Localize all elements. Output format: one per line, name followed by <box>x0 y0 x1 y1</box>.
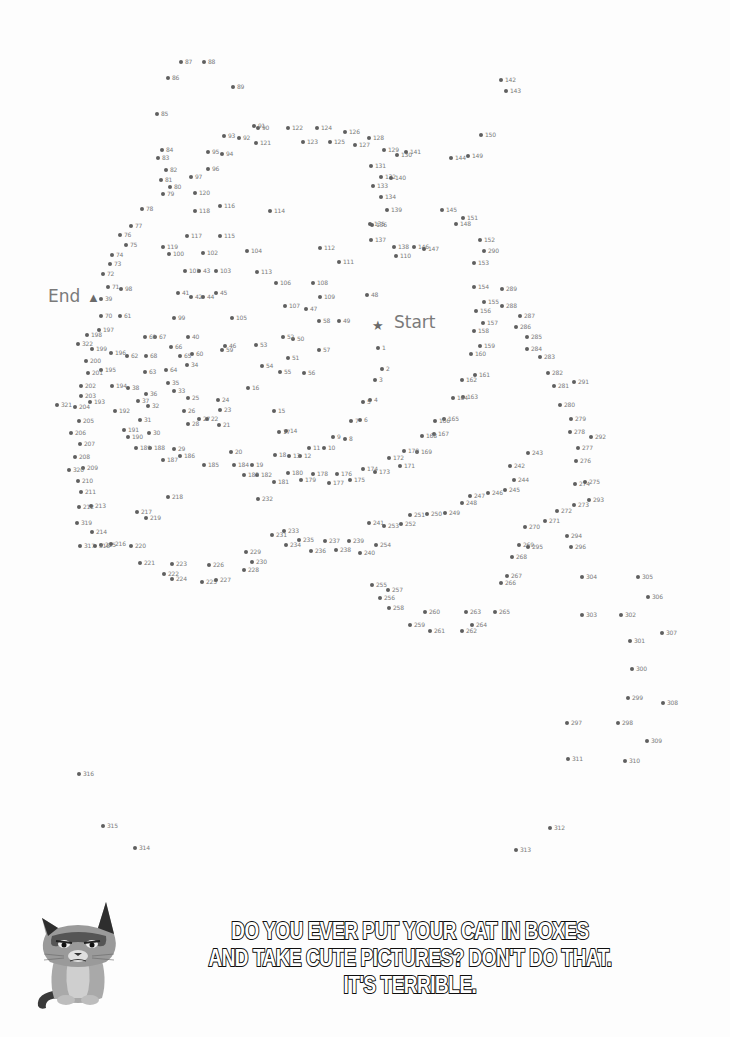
puzzle-dot <box>109 351 113 355</box>
puzzle-dot <box>574 459 578 463</box>
puzzle-dot <box>136 399 140 403</box>
dot-number-label: 160 <box>475 350 486 357</box>
dot-number-label: 66 <box>175 343 182 350</box>
puzzle-dot <box>335 472 339 476</box>
dot-number-label: 68 <box>150 352 157 359</box>
puzzle-dot <box>374 543 378 547</box>
puzzle-dot <box>237 136 241 140</box>
caption-text: DO YOU EVER PUT YOUR CAT IN BOXES AND TA… <box>130 918 690 999</box>
puzzle-dot <box>286 126 290 130</box>
puzzle-dot <box>425 512 429 516</box>
dot-number-label: 145 <box>446 206 457 213</box>
dot-number-label: 45 <box>220 289 227 296</box>
puzzle-dot <box>161 192 165 196</box>
dot-number-label: 162 <box>466 376 477 383</box>
dot-number-label: 158 <box>478 327 489 334</box>
puzzle-dot <box>460 501 464 505</box>
puzzle-dot <box>387 606 391 610</box>
dot-number-label: 192 <box>119 407 130 414</box>
dot-number-label: 6 <box>364 416 368 423</box>
dot-number-label: 216 <box>115 540 126 547</box>
puzzle-dot <box>334 548 338 552</box>
puzzle-dot <box>565 534 569 538</box>
dot-number-label: 306 <box>652 593 663 600</box>
dot-number-label: 142 <box>505 76 516 83</box>
dot-number-label: 55 <box>284 368 291 375</box>
dot-number-label: 201 <box>92 369 103 376</box>
puzzle-dot <box>315 126 319 130</box>
dot-number-label: 7 <box>355 417 359 424</box>
dot-number-label: 56 <box>308 369 315 376</box>
dot-number-label: 204 <box>79 403 90 410</box>
puzzle-dot <box>166 495 170 499</box>
puzzle-dot <box>86 371 90 375</box>
puzzle-dot <box>186 422 190 426</box>
dot-number-label: 205 <box>83 417 94 424</box>
puzzle-dot <box>207 563 211 567</box>
dot-number-label: 115 <box>224 232 235 239</box>
dot-number-label: 195 <box>105 366 116 373</box>
dot-number-label: 39 <box>105 295 112 302</box>
dot-number-label: 149 <box>472 152 483 159</box>
puzzle-dot <box>93 544 97 548</box>
puzzle-dot <box>394 254 398 258</box>
dot-number-label: 219 <box>150 514 161 521</box>
puzzle-dot <box>358 551 362 555</box>
puzzle-dot <box>186 335 190 339</box>
dot-number-label: 170 <box>408 447 419 454</box>
dot-number-label: 126 <box>349 128 360 135</box>
dot-number-label: 53 <box>260 341 267 348</box>
puzzle-dot <box>408 513 412 517</box>
dot-number-label: 303 <box>586 611 597 618</box>
puzzle-dot <box>214 578 218 582</box>
dot-number-label: 88 <box>208 58 215 65</box>
puzzle-dot <box>133 846 137 850</box>
dot-number-label: 113 <box>261 268 272 275</box>
dot-number-label: 267 <box>511 572 522 579</box>
puzzle-dot <box>628 639 632 643</box>
dot-number-label: 315 <box>107 822 118 829</box>
dot-number-label: 296 <box>575 543 586 550</box>
dot-number-label: 54 <box>266 362 273 369</box>
puzzle-dot <box>299 478 303 482</box>
puzzle-dot <box>304 307 308 311</box>
puzzle-dot <box>67 468 71 472</box>
puzzle-dot <box>472 285 476 289</box>
puzzle-dot <box>272 409 276 413</box>
puzzle-dot <box>387 456 391 460</box>
puzzle-dot <box>176 291 180 295</box>
puzzle-dot <box>331 435 335 439</box>
puzzle-dot <box>583 480 587 484</box>
dot-number-label: 129 <box>388 146 399 153</box>
puzzle-dot <box>160 148 164 152</box>
dot-number-label: 211 <box>85 488 96 495</box>
puzzle-dot <box>587 498 591 502</box>
puzzle-dot <box>201 295 205 299</box>
puzzle-dot <box>89 504 93 508</box>
dot-number-label: 61 <box>124 312 131 319</box>
caption-line-1: DO YOU EVER PUT YOUR CAT IN BOXES <box>180 918 639 945</box>
puzzle-dot <box>159 178 163 182</box>
dot-number-label: 109 <box>324 293 335 300</box>
dot-number-label: 307 <box>666 629 677 636</box>
puzzle-dot <box>185 234 189 238</box>
dot-number-label: 154 <box>478 283 489 290</box>
dot-number-label: 147 <box>428 245 439 252</box>
puzzle-dot <box>474 309 478 313</box>
puzzle-dot <box>543 519 547 523</box>
puzzle-dot <box>365 293 369 297</box>
puzzle-dot <box>466 154 470 158</box>
dot-number-label: 297 <box>571 719 582 726</box>
dot-number-label: 186 <box>184 452 195 459</box>
dot-number-label: 134 <box>385 193 396 200</box>
dot-number-label: 238 <box>340 546 351 553</box>
dot-number-label: 131 <box>375 162 386 169</box>
puzzle-dot <box>218 204 222 208</box>
puzzle-dot <box>514 848 518 852</box>
puzzle-dot <box>328 140 332 144</box>
puzzle-dot <box>573 482 577 486</box>
dot-number-label: 19 <box>256 461 263 468</box>
dot-number-label: 24 <box>222 396 229 403</box>
dot-number-label: 98 <box>125 285 132 292</box>
puzzle-dot <box>395 153 399 157</box>
